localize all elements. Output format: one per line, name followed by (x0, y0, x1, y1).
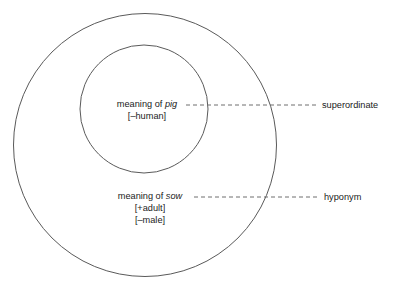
superordinate-label: superordinate (322, 100, 378, 110)
outer-label-feature-2: [–male] (118, 215, 182, 227)
inner-label-word: pig (165, 99, 177, 109)
inner-circle-label: meaning of pig [–human] (117, 99, 177, 123)
outer-label-feature-1: [+adult] (118, 203, 182, 215)
inner-circle-label-line-1: meaning of pig (117, 99, 177, 111)
diagram-canvas: meaning of pig [–human] meaning of sow [… (0, 0, 407, 293)
inner-label-feature-1: [–human] (117, 111, 177, 123)
hyponym-label: hyponym (324, 192, 361, 202)
outer-circle-label-line-1: meaning of sow (118, 191, 182, 203)
outer-label-word: sow (166, 191, 182, 201)
inner-label-prefix: meaning of (117, 99, 165, 109)
outer-circle-label: meaning of sow [+adult] [–male] (118, 191, 182, 226)
diagram-shapes-layer (0, 0, 407, 293)
outer-label-prefix: meaning of (118, 191, 166, 201)
outer-circle (14, 14, 277, 277)
